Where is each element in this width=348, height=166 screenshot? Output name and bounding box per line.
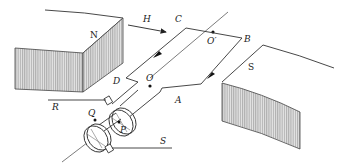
generator-diagram: N S H O′ O C B [0, 0, 348, 166]
label-b: B [243, 34, 251, 44]
north-pole-label: N [90, 30, 98, 40]
north-magnet: N [15, 10, 123, 92]
label-c: C [175, 14, 182, 24]
south-magnet: S [222, 45, 334, 149]
label-p: P [119, 125, 127, 135]
terminal-r-label: R [51, 102, 59, 112]
label-o: O [146, 73, 154, 83]
terminal-s-label: S [160, 136, 166, 146]
brush-r: R [48, 96, 113, 112]
field-direction-arrow: H [128, 14, 166, 32]
south-pole-label: S [248, 62, 254, 72]
field-label: H [142, 14, 151, 24]
label-a: A [174, 95, 182, 105]
label-o-prime: O′ [207, 36, 216, 46]
brush-s: S [105, 136, 172, 153]
axis-point-o [148, 84, 151, 87]
label-d: D [112, 76, 120, 86]
label-q: Q [88, 108, 96, 118]
